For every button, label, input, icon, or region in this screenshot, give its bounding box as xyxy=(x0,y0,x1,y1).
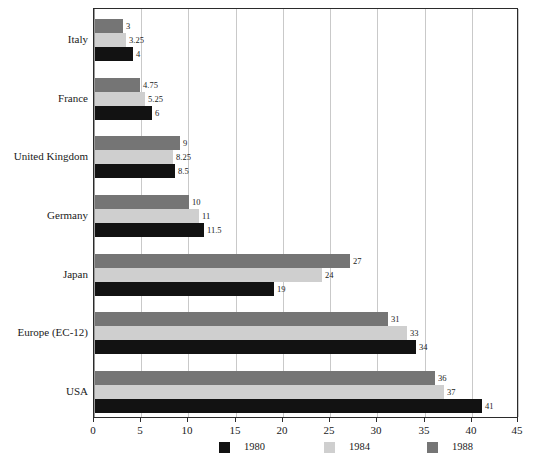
x-tick-mark-15 xyxy=(235,418,236,422)
bar-value-label: 34 xyxy=(419,340,428,354)
bar-value-label: 19 xyxy=(277,282,286,296)
x-tick-mark-10 xyxy=(187,418,188,422)
bar-value-label: 31 xyxy=(391,312,400,326)
gridline-15 xyxy=(236,9,237,417)
bar-france-1980 xyxy=(95,106,152,120)
bar-value-label: 36 xyxy=(438,371,447,385)
x-tick-mark-20 xyxy=(282,418,283,422)
legend-swatch-icon-1984 xyxy=(324,442,335,453)
x-tick-label-45: 45 xyxy=(512,423,523,437)
x-tick-label-35: 35 xyxy=(419,423,430,437)
gridline-40 xyxy=(472,9,473,417)
bar-value-label: 3.25 xyxy=(129,33,144,47)
bar-value-label: 3 xyxy=(126,19,130,33)
bar-italy-1980 xyxy=(95,47,133,61)
bar-value-label: 5.25 xyxy=(148,92,163,106)
x-tick-mark-0 xyxy=(93,418,94,422)
bar-germany-1988 xyxy=(95,195,189,209)
category-label-france: France xyxy=(0,92,88,104)
bar-europe-ec-12--1984 xyxy=(95,326,407,340)
bar-chart: ItalyFranceUnited KingdomGermanyJapanEur… xyxy=(0,0,540,462)
x-tick-label-20: 20 xyxy=(277,423,288,437)
bar-united-kingdom-1980 xyxy=(95,164,175,178)
bar-value-label: 11.5 xyxy=(207,223,222,237)
bar-japan-1980 xyxy=(95,282,274,296)
bar-value-label: 8.25 xyxy=(176,150,191,164)
category-label-germany: Germany xyxy=(0,209,88,221)
bar-italy-1988 xyxy=(95,19,123,33)
category-axis-labels: ItalyFranceUnited KingdomGermanyJapanEur… xyxy=(0,8,88,418)
category-label-japan: Japan xyxy=(0,268,88,280)
legend-label-1984: 1984 xyxy=(349,441,370,453)
legend-label-1988: 1988 xyxy=(452,441,473,453)
bar-germany-1984 xyxy=(95,209,199,223)
x-tick-mark-35 xyxy=(424,418,425,422)
legend-label-1980: 1980 xyxy=(244,441,265,453)
legend-item-1980[interactable]: 1980 xyxy=(219,440,265,454)
category-label-italy: Italy xyxy=(0,33,88,45)
x-axis: 051015202530354045 xyxy=(93,418,518,440)
bar-value-label: 27 xyxy=(353,254,362,268)
plot-inner: 33.2544.755.25698.258.5101111.5272419313… xyxy=(94,9,517,417)
bar-germany-1980 xyxy=(95,223,204,237)
bar-usa-1980 xyxy=(95,399,482,413)
x-tick-label-40: 40 xyxy=(466,423,477,437)
category-label-europe-ec-12-: Europe (EC-12) xyxy=(0,326,88,338)
bar-value-label: 33 xyxy=(410,326,419,340)
x-tick-label-0: 0 xyxy=(90,423,96,437)
x-tick-label-30: 30 xyxy=(371,423,382,437)
legend-item-1984[interactable]: 1984 xyxy=(324,440,370,454)
bar-value-label: 6 xyxy=(155,106,159,120)
chart-legend: 198019841988 xyxy=(93,440,518,456)
bar-value-label: 24 xyxy=(325,268,334,282)
bar-usa-1988 xyxy=(95,371,435,385)
bar-value-label: 10 xyxy=(192,195,201,209)
x-tick-label-10: 10 xyxy=(182,423,193,437)
bar-france-1984 xyxy=(95,92,145,106)
plot-area: 33.2544.755.25698.258.5101111.5272419313… xyxy=(93,8,518,418)
x-tick-label-15: 15 xyxy=(230,423,241,437)
bar-japan-1988 xyxy=(95,254,350,268)
bar-value-label: 9 xyxy=(183,136,187,150)
x-tick-mark-25 xyxy=(329,418,330,422)
bar-value-label: 4.75 xyxy=(143,78,158,92)
bar-europe-ec-12--1988 xyxy=(95,312,388,326)
x-tick-mark-45 xyxy=(517,418,518,422)
legend-swatch-icon-1988 xyxy=(427,442,438,453)
gridline-45 xyxy=(518,9,519,417)
bar-europe-ec-12--1980 xyxy=(95,340,416,354)
bar-france-1988 xyxy=(95,78,140,92)
bar-value-label: 4 xyxy=(136,47,140,61)
gridline-30 xyxy=(377,9,378,417)
x-tick-label-25: 25 xyxy=(324,423,335,437)
bar-value-label: 11 xyxy=(202,209,210,223)
gridline-25 xyxy=(330,9,331,417)
gridline-35 xyxy=(425,9,426,417)
bar-united-kingdom-1988 xyxy=(95,136,180,150)
legend-item-1988[interactable]: 1988 xyxy=(427,440,473,454)
legend-swatch-icon-1980 xyxy=(219,442,230,453)
x-tick-label-5: 5 xyxy=(137,423,143,437)
chart-title xyxy=(93,0,518,2)
bar-japan-1984 xyxy=(95,268,322,282)
bar-italy-1984 xyxy=(95,33,126,47)
bar-value-label: 8.5 xyxy=(178,164,189,178)
category-label-usa: USA xyxy=(0,385,88,397)
gridline-20 xyxy=(283,9,284,417)
x-tick-mark-40 xyxy=(471,418,472,422)
category-label-united-kingdom: United Kingdom xyxy=(0,150,88,162)
bar-value-label: 41 xyxy=(485,399,494,413)
x-tick-mark-30 xyxy=(376,418,377,422)
bar-value-label: 37 xyxy=(447,385,456,399)
x-tick-mark-5 xyxy=(140,418,141,422)
bar-usa-1984 xyxy=(95,385,444,399)
bar-united-kingdom-1984 xyxy=(95,150,173,164)
